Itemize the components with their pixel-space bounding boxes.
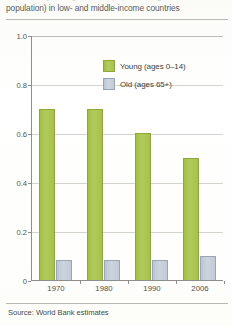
y-axis-tick-mark [28,232,31,233]
bar-young-2006 [183,158,199,281]
scanned-page: dependency ratio (percent of population … [0,0,232,326]
bar-chart: 00.20.40.60.81.0 1970198019902006 Young … [0,24,232,302]
bar-old-2006 [200,256,216,281]
y-axis-tick-mark [28,85,31,86]
source-note: Source: World Bank estimates [8,308,109,317]
legend-item-young: Young (ages 0–14) [103,58,186,74]
bar-old-1980 [104,260,120,280]
divider-top [6,19,228,20]
y-axis-tick-label: 0.4 [3,179,27,188]
caption-block: dependency ratio (percent of population … [0,0,232,18]
legend: Young (ages 0–14) Old (ages 65+) [103,58,186,94]
bar-old-1990 [152,260,168,280]
bar-young-1990 [135,133,151,280]
caption-cut-off-line: dependency ratio (percent of population … [6,0,230,1]
y-axis-tick-mark [28,281,31,282]
y-axis-tick-label: 0.6 [3,130,27,139]
bar-young-1970 [39,109,55,281]
x-axis-tick-label: 2006 [176,284,224,293]
bar-old-1970 [56,260,72,280]
legend-swatch-old-icon [103,78,115,90]
x-axis-tick-label: 1990 [128,284,176,293]
x-axis-tick-label: 1980 [80,284,128,293]
bar-young-1980 [87,109,103,281]
legend-label-old: Old (ages 65+) [120,80,172,89]
y-axis-tick-label: 0.8 [3,81,27,90]
bar-group [33,36,81,280]
x-axis-tick-label: 1970 [32,284,80,293]
y-axis-tick-label: 0.2 [3,228,27,237]
y-axis-tick-label: 0 [3,277,27,286]
caption-visible-line: population) in low- and middle-income co… [6,3,232,13]
legend-label-young: Young (ages 0–14) [120,62,186,71]
y-axis-tick-mark [28,183,31,184]
legend-item-old: Old (ages 65+) [103,76,186,92]
y-axis-tick-mark [28,134,31,135]
legend-swatch-young-icon [103,60,115,72]
y-axis-tick-label: 1.0 [3,32,27,41]
y-axis-tick-mark [28,36,31,37]
divider-bottom [6,303,228,304]
x-axis-tick-mark [224,281,225,284]
